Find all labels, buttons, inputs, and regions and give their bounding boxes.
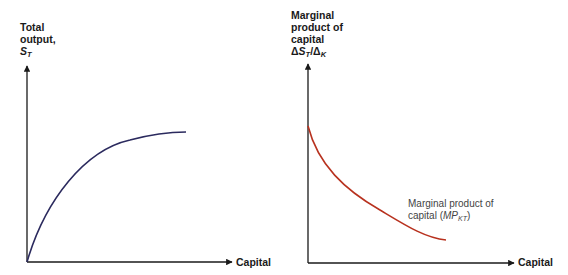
charts-canvas: [0, 0, 568, 275]
left-chart: [27, 66, 232, 262]
marginal-product-curve: [308, 126, 446, 240]
total-output-curve: [27, 132, 186, 262]
right-chart: [308, 64, 514, 263]
